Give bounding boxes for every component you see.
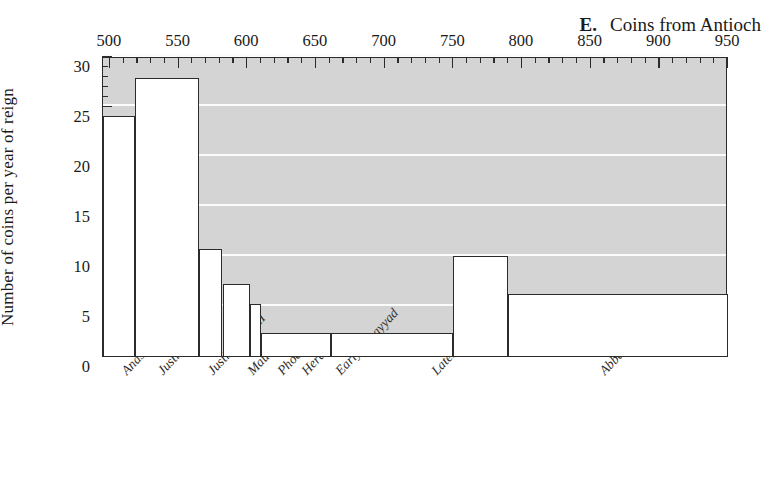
x-tick	[466, 57, 467, 63]
x-tick	[164, 57, 165, 63]
x-tick	[713, 57, 714, 63]
x-tick	[232, 57, 233, 63]
x-axis-tick-label: 650	[303, 31, 328, 51]
y-tick	[102, 66, 108, 67]
x-tick	[535, 57, 536, 63]
x-tick	[425, 57, 426, 63]
x-tick	[411, 57, 412, 63]
x-tick	[384, 57, 385, 68]
x-tick	[219, 57, 220, 63]
x-tick	[700, 57, 701, 63]
x-tick	[342, 57, 343, 63]
x-axis-tick-label: 750	[440, 31, 465, 51]
x-tick	[645, 57, 646, 63]
x-tick	[370, 57, 371, 63]
histogram-bar	[261, 333, 331, 356]
histogram-bar	[199, 249, 222, 356]
x-tick	[576, 57, 577, 63]
x-tick	[672, 57, 673, 63]
x-tick	[631, 57, 632, 63]
histogram-bar	[223, 284, 250, 356]
x-axis-tick-label: 950	[715, 31, 740, 51]
x-tick	[329, 57, 330, 63]
x-tick	[260, 57, 261, 63]
histogram-bar	[250, 304, 261, 356]
x-tick	[521, 57, 522, 68]
x-tick	[123, 57, 124, 63]
x-axis-tick-label: 500	[96, 31, 121, 51]
x-tick	[274, 57, 275, 63]
histogram-bar	[331, 333, 453, 356]
x-axis-tick-label: 850	[577, 31, 602, 51]
plot-area	[102, 57, 727, 357]
histogram-bar	[508, 294, 728, 356]
histogram-bar	[103, 116, 135, 356]
x-tick	[507, 57, 508, 63]
x-tick	[658, 57, 659, 68]
x-tick	[548, 57, 549, 63]
x-tick	[686, 57, 687, 63]
x-tick	[246, 57, 247, 68]
histogram-bar	[135, 78, 200, 356]
y-tick	[102, 56, 112, 57]
x-tick	[287, 57, 288, 63]
x-axis-tick-label: 800	[509, 31, 534, 51]
x-axis-tick-label: 550	[165, 31, 190, 51]
x-tick	[205, 57, 206, 63]
x-tick	[439, 57, 440, 63]
x-tick	[109, 57, 110, 68]
x-tick	[452, 57, 453, 68]
x-tick	[178, 57, 179, 68]
x-tick	[397, 57, 398, 63]
x-tick	[150, 57, 151, 63]
x-tick	[590, 57, 591, 68]
x-tick	[480, 57, 481, 63]
x-tick	[191, 57, 192, 63]
y-tick	[102, 86, 108, 87]
x-axis-tick-label: 900	[646, 31, 671, 51]
x-tick	[356, 57, 357, 63]
x-axis-tick-label: 700	[371, 31, 396, 51]
histogram-bar	[453, 256, 508, 356]
y-tick	[102, 96, 108, 97]
x-tick	[315, 57, 316, 68]
y-tick	[102, 76, 108, 77]
x-axis-tick-label: 600	[234, 31, 259, 51]
y-tick	[102, 106, 112, 107]
x-tick	[603, 57, 604, 63]
gridline-y-30	[103, 54, 726, 56]
y-axis-title: Number of coins per year of reign	[0, 57, 20, 357]
x-tick	[136, 57, 137, 63]
chart-figure: E.Coins from Antioch Number of coins per…	[0, 0, 771, 481]
x-tick	[727, 57, 728, 68]
x-tick	[493, 57, 494, 63]
x-tick	[617, 57, 618, 63]
x-tick	[562, 57, 563, 63]
x-tick	[301, 57, 302, 63]
